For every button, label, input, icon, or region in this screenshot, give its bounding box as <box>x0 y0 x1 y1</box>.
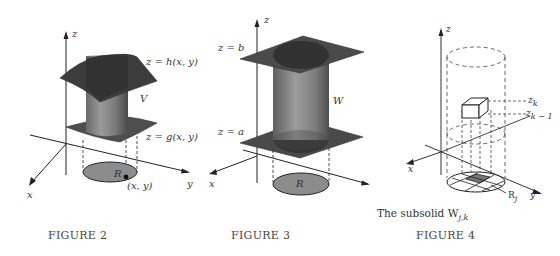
figure-4: z zk zk − 1 x y Rj The subsolid Wj,k FIG… <box>370 0 560 256</box>
fig4-subregion-label: Rj <box>508 190 517 203</box>
fig2-solid-label: V <box>140 93 147 104</box>
fig3-bottom-plane-label: z = a <box>218 126 244 137</box>
fig3-solid-label: W <box>333 95 343 106</box>
fig2-point-label: (x, y) <box>127 180 152 191</box>
z-axis-arrow-icon <box>255 19 260 27</box>
fig4-caption: FIGURE 4 <box>416 229 475 242</box>
fig2-region-label: R <box>114 168 122 179</box>
figure-2-diagram <box>0 0 190 256</box>
x-axis <box>31 144 66 183</box>
z-axis-arrow-icon <box>64 31 69 39</box>
subsolid-box <box>462 98 488 118</box>
fig2-x-axis-label: x <box>27 189 33 200</box>
fig3-region-label: R <box>296 178 304 189</box>
figure-3-diagram <box>190 0 370 256</box>
figure-3: z z = b W z = a x y R FIGURE 3 <box>190 0 370 256</box>
region-r <box>83 162 137 182</box>
fig3-caption: FIGURE 3 <box>231 229 290 242</box>
fig2-z-axis-label: z <box>72 28 77 39</box>
x-axis-arrow-icon <box>209 169 217 175</box>
fig3-y-axis-label: y <box>187 178 193 189</box>
x-axis <box>212 156 257 173</box>
partitioned-region <box>447 172 505 192</box>
fig4-upper-level-label: zk <box>528 95 538 108</box>
fig4-subcaption: The subsolid Wj,k <box>377 207 468 222</box>
fig4-z-axis-label: z <box>446 24 451 34</box>
fig4-lower-level-label: zk − 1 <box>526 108 552 121</box>
fig4-y-axis-label: y <box>530 190 535 200</box>
y-axis-arrow-icon <box>361 181 370 186</box>
x-axis <box>409 152 441 163</box>
z-axis-arrow-icon <box>439 28 444 36</box>
fig3-top-plane-label: z = b <box>218 42 244 53</box>
figure-2: z z = h(x, y) V z = g(x, y) R (x, y) x F… <box>0 0 190 256</box>
fig4-x-axis-label: x <box>408 164 413 174</box>
fig2-caption: FIGURE 2 <box>48 229 107 242</box>
fig3-z-axis-label: z <box>264 14 269 25</box>
y-axis-arrow-icon <box>181 169 190 174</box>
point-xy-marker-icon <box>124 175 129 180</box>
fig3-x-axis-label: x <box>209 178 215 189</box>
